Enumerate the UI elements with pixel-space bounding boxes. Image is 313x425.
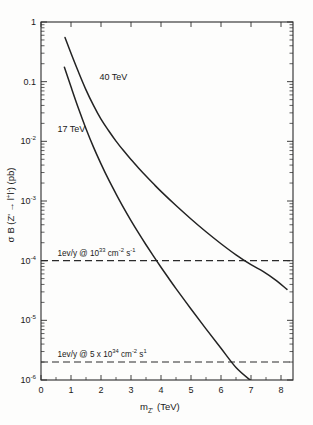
y-axis-title: σB (Z'→l+l-) (pb) — [5, 168, 16, 243]
x-tick-label-2: 2 — [98, 385, 103, 395]
y-axis-tick-labels: 10.110-210-310-410-510-6 — [20, 17, 36, 385]
x-axis-title-subscript: Z' — [148, 407, 153, 414]
x-axis-title: mZ'(TeV) — [140, 401, 180, 414]
x-tick-label-4: 4 — [158, 385, 163, 395]
svg-text:σB (Z'→l+l-) (pb): σB (Z'→l+l-) (pb) — [5, 168, 16, 243]
x-tick-label-6: 6 — [218, 385, 223, 395]
x-tick-label-8: 8 — [278, 385, 283, 395]
x-tick-label-7: 7 — [248, 385, 253, 395]
y-tick-label-2: 10-2 — [20, 134, 36, 146]
y-axis-ticks — [41, 22, 293, 380]
y-axis-title-sigma: σ — [5, 236, 16, 242]
threshold-labels: 1ev/y @ 1033 cm-2 s-11ev/y @ 5 x 1034 cm… — [58, 247, 147, 359]
threshold-label-luminosity-1e33: 1ev/y @ 1033 cm-2 s-1 — [58, 247, 136, 258]
y-axis-title-arrow: → — [5, 202, 16, 212]
curve-17-tev — [64, 67, 251, 381]
x-tick-label-1: 1 — [68, 385, 73, 395]
y-axis-minor-ticks — [41, 25, 293, 362]
x-axis-ticks — [41, 22, 281, 380]
x-tick-label-3: 3 — [128, 385, 133, 395]
y-tick-label-1: 0.1 — [23, 77, 36, 87]
x-axis-title-units: (TeV) — [157, 401, 180, 412]
y-tick-label-4: 10-4 — [20, 254, 36, 266]
cross-section-log-plot: 012345678 10.110-210-310-410-510-6 1ev/y… — [0, 0, 313, 425]
data-curves — [64, 37, 287, 380]
threshold-label-luminosity-5e34: 1ev/y @ 5 x 1034 cm-2 s1 — [58, 348, 147, 359]
curve-label-40-tev: 40 TeV — [100, 72, 128, 82]
plot-frame — [41, 22, 293, 380]
y-axis-title-b: B (Z' — [5, 214, 16, 234]
x-axis-title-main: m — [140, 401, 148, 412]
x-tick-label-5: 5 — [188, 385, 193, 395]
x-tick-label-0: 0 — [38, 385, 43, 395]
y-tick-label-0: 1 — [31, 17, 36, 27]
curve-label-17-tev: 17 TeV — [58, 124, 86, 134]
x-axis-tick-labels: 012345678 — [38, 385, 283, 395]
y-tick-label-5: 10-5 — [20, 313, 36, 325]
svg-text:mZ'(TeV): mZ'(TeV) — [140, 401, 180, 414]
y-axis-title-close: ) (pb) — [5, 168, 16, 191]
y-tick-label-3: 10-3 — [20, 194, 36, 206]
figure-container: 012345678 10.110-210-310-410-510-6 1ev/y… — [0, 0, 313, 425]
y-tick-label-6: 10-6 — [20, 373, 36, 385]
